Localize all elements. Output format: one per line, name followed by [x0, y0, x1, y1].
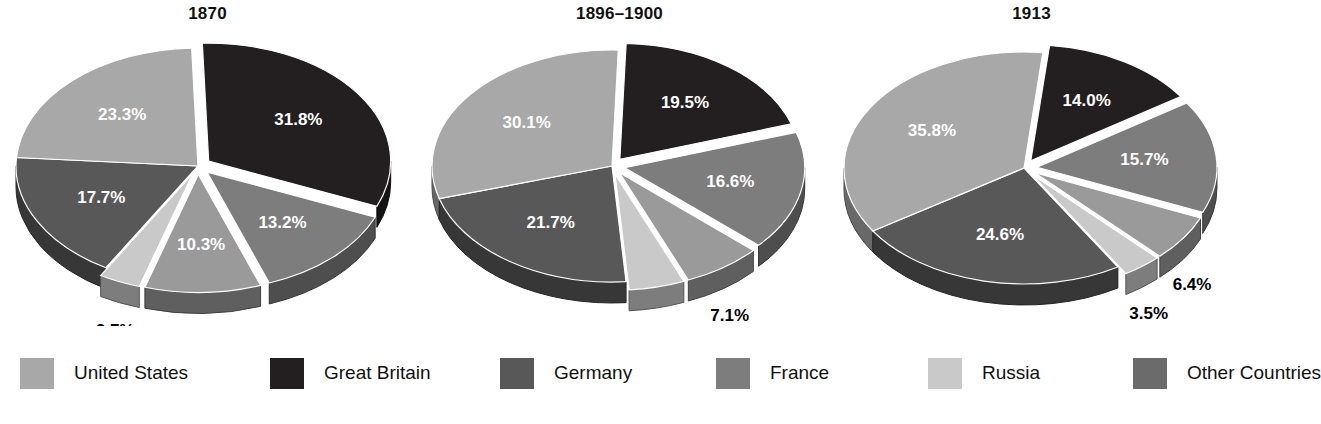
legend-color-swatch	[500, 358, 534, 389]
pie-slice-label: 23.3%	[98, 105, 146, 124]
pie-slice-label: 35.8%	[908, 121, 956, 140]
legend: United StatesGreat BritainGermanyFranceR…	[0, 352, 1245, 398]
pie-slice-label: 17.7%	[77, 188, 125, 207]
legend-item[interactable]: France	[716, 352, 829, 394]
legend-item[interactable]: Great Britain	[270, 352, 431, 394]
legend-color-swatch	[270, 358, 304, 389]
legend-label: Russia	[982, 362, 1040, 384]
pie-slice-label: 3.7%	[96, 321, 135, 326]
pie-panel-1870: 1870 31.8%13.2%10.3%3.7%17.7%23.3%	[0, 0, 415, 340]
pie-slice-label: 31.8%	[274, 110, 322, 129]
pie-title: 1913	[824, 4, 1239, 24]
pie-slice-label: 13.2%	[258, 213, 306, 232]
pie-slice-label: 19.5%	[661, 93, 709, 112]
legend-label: Germany	[554, 362, 632, 384]
pie-slice-label: 16.6%	[706, 172, 754, 191]
pie-panel-1913: 1913 14.0%15.7%6.4%3.5%24.6%35.8%	[824, 0, 1239, 340]
pie-slice-label: 7.1%	[710, 306, 749, 325]
legend-item[interactable]: United States	[20, 352, 188, 394]
legend-label: France	[770, 362, 829, 384]
pie-slice-label: 3.5%	[1129, 304, 1168, 323]
pie-slice-label: 24.6%	[976, 225, 1024, 244]
legend-label: Great Britain	[324, 362, 431, 384]
pie-slice-label: 14.0%	[1063, 91, 1111, 110]
legend-item[interactable]: Russia	[928, 352, 1040, 394]
pie-slice-label: 10.3%	[177, 235, 225, 254]
pie-chart-svg: 31.8%13.2%10.3%3.7%17.7%23.3%	[0, 26, 415, 326]
legend-item[interactable]: Other Countries	[1133, 352, 1321, 394]
pie-slice-label: 21.7%	[527, 213, 575, 232]
pie-chart-svg: 19.5%16.6%7.1%5.0%21.7%30.1%	[412, 26, 827, 326]
legend-label: United States	[74, 362, 188, 384]
legend-item[interactable]: Germany	[500, 352, 632, 394]
pie-panel-1896-1900: 1896–1900 19.5%16.6%7.1%5.0%21.7%30.1%	[412, 0, 827, 340]
legend-color-swatch	[20, 358, 54, 389]
pie-slice-label: 15.7%	[1120, 150, 1168, 169]
pie-title: 1870	[0, 4, 415, 24]
legend-color-swatch	[928, 358, 962, 389]
legend-label: Other Countries	[1187, 362, 1321, 384]
pie-title: 1896–1900	[412, 4, 827, 24]
pie-chart-svg: 14.0%15.7%6.4%3.5%24.6%35.8%	[824, 26, 1239, 326]
pie-slice-label: 6.4%	[1173, 275, 1212, 294]
pie-slice-label: 30.1%	[503, 113, 551, 132]
legend-color-swatch	[1133, 358, 1167, 389]
legend-color-swatch	[716, 358, 750, 389]
